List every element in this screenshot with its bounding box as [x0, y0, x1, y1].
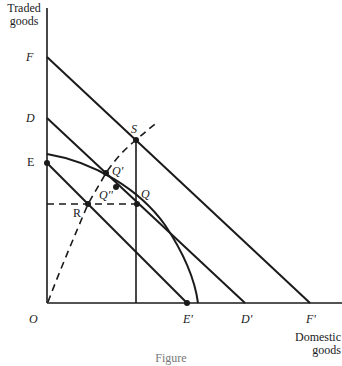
label-R: R [73, 207, 81, 219]
point-Qprime [103, 170, 109, 176]
figure-caption: Figure [0, 351, 342, 366]
label-S: S [131, 123, 137, 135]
label-Qprime: Q' [112, 165, 123, 177]
point-Eprime [184, 300, 190, 306]
label-F: F [26, 51, 33, 63]
label-Qdoubleprime: Q'' [99, 189, 113, 201]
y-axis-title-line2: goods [2, 15, 46, 28]
label-Fprime: F' [306, 313, 316, 325]
label-D: D [26, 112, 35, 124]
point-R [85, 201, 91, 207]
point-Qdoubleprime [113, 184, 119, 190]
label-E: E [27, 156, 34, 168]
line-F-Fprime [47, 57, 310, 303]
label-Dprime: D' [241, 313, 252, 325]
point-E [44, 160, 50, 166]
y-axis-title: Traded goods [2, 2, 46, 28]
point-S [133, 137, 139, 143]
label-Q: Q [141, 188, 150, 200]
label-origin: O [29, 313, 38, 325]
label-Eprime: E' [183, 313, 193, 325]
expansion-path-dashed [48, 122, 158, 302]
point-Q [134, 201, 140, 207]
